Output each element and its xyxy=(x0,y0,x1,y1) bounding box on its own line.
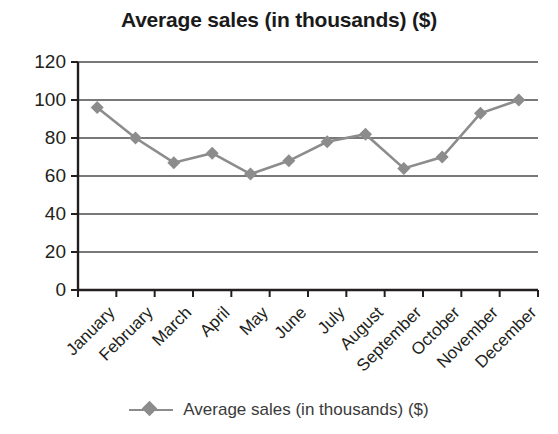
diamond-marker-icon xyxy=(142,401,158,417)
chart-legend: Average sales (in thousands) ($) xyxy=(0,400,558,420)
line-chart: Average sales (in thousands) ($) 1201008… xyxy=(0,0,558,434)
legend-marker-key xyxy=(129,403,173,417)
x-axis-tick-labels: JanuaryFebruaryMarchAprilMayJuneJulyAugu… xyxy=(0,0,558,400)
legend-label: Average sales (in thousands) ($) xyxy=(183,400,428,420)
